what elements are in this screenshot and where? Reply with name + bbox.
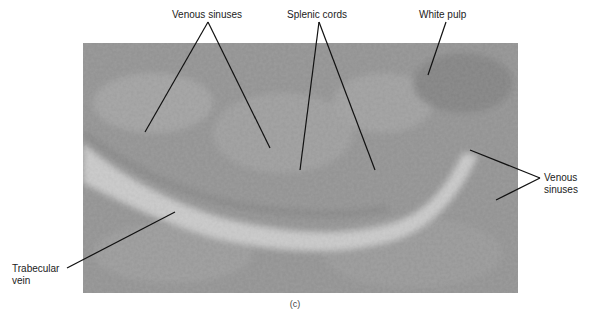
- label-trabecular-vein-line1: Trabecular: [12, 263, 59, 275]
- panel-caption: (c): [0, 299, 590, 309]
- tissue-texture: [83, 43, 518, 293]
- label-trabecular-vein-line2: vein: [12, 275, 30, 287]
- label-venous-sinuses-right-line1: Venous: [544, 172, 577, 184]
- label-venous-sinuses-right-line2: sinuses: [544, 184, 578, 196]
- label-white-pulp: White pulp: [419, 9, 466, 21]
- label-splenic-cords: Splenic cords: [287, 9, 347, 21]
- label-venous-sinuses-top: Venous sinuses: [172, 9, 242, 21]
- spleen-micrograph-image: [83, 43, 518, 293]
